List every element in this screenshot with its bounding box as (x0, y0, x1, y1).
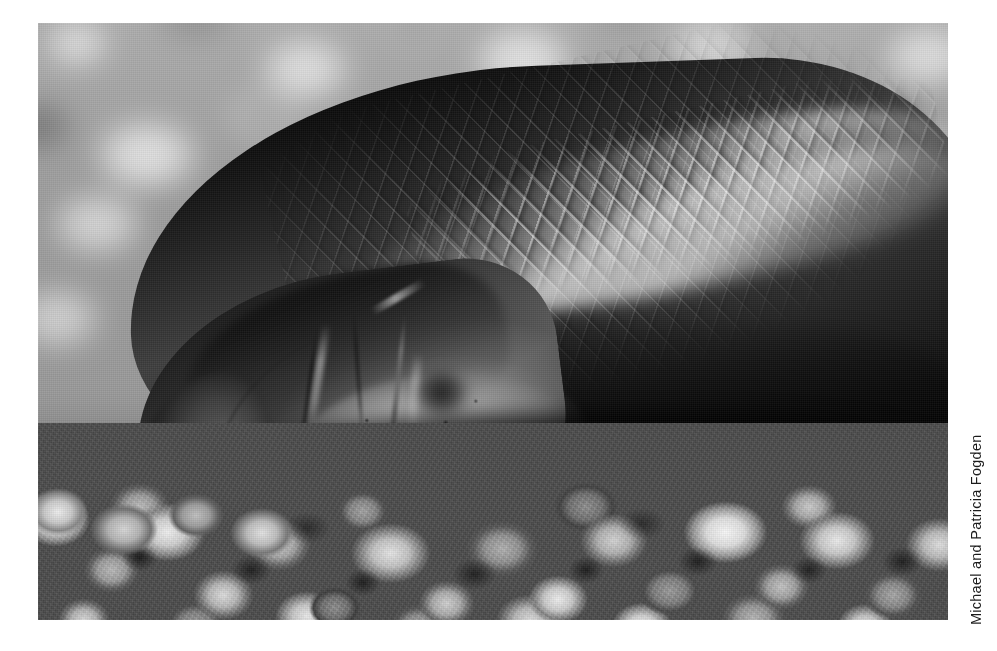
page-canvas: Michael and Patricia Fogden (0, 0, 997, 651)
photograph (38, 23, 948, 620)
photo-credit-text: Michael and Patricia Fogden (969, 434, 984, 625)
foreground-gravel-left (38, 463, 328, 620)
